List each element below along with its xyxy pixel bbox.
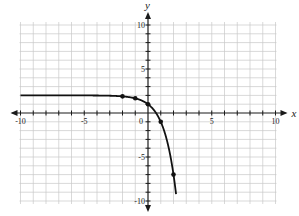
axes: x y [11,0,297,212]
x-tick-label: 0 [139,117,143,126]
y-axis-label: y [144,0,150,11]
data-point [146,102,151,107]
y-tick-label: -10 [134,197,145,206]
y-axis-arrow-down [145,205,151,212]
function-graph: x y -10-50510105-5-10 [0,0,299,216]
y-tick-label: 10 [137,21,145,30]
x-axis-arrow-left [11,110,18,116]
y-tick-label: 5 [141,65,145,74]
data-point [133,96,138,101]
data-point [171,172,176,177]
x-tick-label: -5 [81,117,88,126]
x-axis-label: x [291,107,297,119]
data-point [158,120,163,125]
x-axis-arrow-right [281,110,288,116]
data-point [120,94,125,99]
function-curve [21,95,177,194]
x-tick-label: 5 [210,117,214,126]
x-tick-label: 10 [272,117,280,126]
x-tick-label: -10 [15,117,26,126]
y-axis-arrow-up [145,12,151,19]
y-tick-label: -5 [138,153,145,162]
